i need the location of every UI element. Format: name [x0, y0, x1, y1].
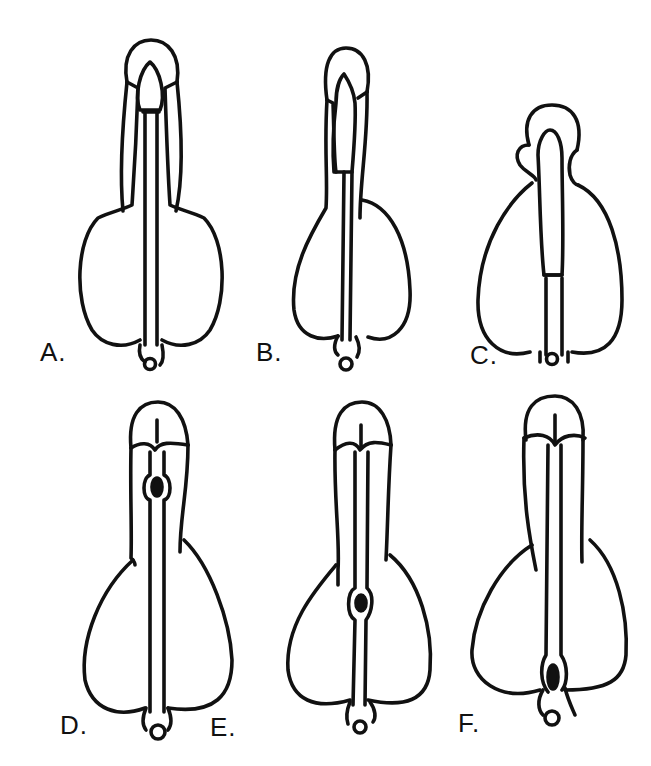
panel-c: C. — [440, 0, 651, 380]
diagram-d — [0, 390, 240, 766]
panel-f: F. — [440, 390, 651, 766]
panel-label-c: C. — [470, 340, 498, 371]
panel-label-d: D. — [60, 710, 88, 741]
figure: A. B. — [0, 0, 651, 766]
panel-d: D. — [0, 390, 240, 766]
diagram-a — [0, 0, 230, 380]
panel-label-b: B. — [256, 337, 283, 368]
panel-e: E. — [240, 390, 440, 766]
panel-label-e: E. — [210, 712, 237, 743]
diagram-c — [440, 0, 651, 380]
diagram-e — [240, 390, 440, 766]
diagram-b — [230, 0, 445, 380]
panel-label-f: F. — [458, 708, 480, 739]
panel-b: B. — [230, 0, 445, 380]
panel-label-a: A. — [40, 337, 67, 368]
panel-a: A. — [0, 0, 230, 380]
